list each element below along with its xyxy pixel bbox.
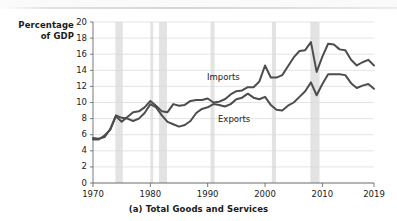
y-axis-title-line1: Percentage [8, 20, 74, 31]
y-tick-label-20: 20 [67, 17, 87, 27]
y-axis-title-line2: of GDP [8, 31, 74, 42]
series-line-imports [93, 42, 374, 139]
y-tick-label-12: 12 [67, 81, 87, 91]
x-tick-label-1980: 1980 [130, 189, 170, 199]
y-tick-label-14: 14 [67, 65, 87, 75]
series-label-imports: Imports [207, 72, 240, 82]
figure-total-goods-and-services: Percentage of GDP Imports Exports 024681… [0, 0, 397, 221]
x-tick-label-1970: 1970 [73, 189, 113, 199]
y-tick-label-16: 16 [67, 49, 87, 59]
y-tick-label-18: 18 [67, 33, 87, 43]
y-tick-label-6: 6 [67, 129, 87, 139]
series-line-exports [93, 74, 374, 138]
y-tick-label-10: 10 [67, 97, 87, 107]
x-tick-label-2000: 2000 [245, 189, 285, 199]
scan-artifact-line [0, 7, 397, 9]
y-tick-label-4: 4 [67, 145, 87, 155]
y-tick-label-8: 8 [67, 113, 87, 123]
x-tick-label-1990: 1990 [188, 189, 228, 199]
x-tick-label-2010: 2010 [302, 189, 342, 199]
x-tick-label-2019: 2019 [354, 189, 394, 199]
series-label-exports: Exports [218, 114, 250, 124]
y-tick-label-0: 0 [67, 178, 87, 188]
figure-caption: (a) Total Goods and Services [0, 204, 397, 214]
y-tick-label-2: 2 [67, 161, 87, 171]
